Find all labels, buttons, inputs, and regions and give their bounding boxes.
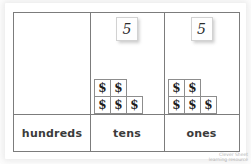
work-area-hundreds[interactable] (14, 13, 90, 114)
column-tens[interactable]: 5 $ $ $ (90, 13, 164, 151)
dollar-icon: $ (172, 82, 180, 94)
column-label-tens: tens (113, 127, 141, 140)
label-cell-hundreds: hundreds (14, 114, 90, 152)
column-divider-hundreds-tens (90, 13, 91, 151)
dollar-tile[interactable]: $ (94, 79, 111, 97)
label-cell-tens: tens (90, 114, 164, 152)
dollar-icon: $ (130, 99, 138, 111)
tile-row: $ $ (94, 79, 126, 97)
dollar-tile[interactable]: $ (168, 96, 185, 114)
dollar-tile[interactable]: $ (110, 79, 127, 97)
dollar-tile[interactable]: $ (168, 79, 185, 97)
column-divider-tens-ones (164, 13, 165, 151)
dollar-icon: $ (188, 99, 196, 111)
watermark-logo: Clever Sheet learning resource (209, 152, 248, 162)
chart-columns: hundreds 5 $ $ (14, 13, 239, 151)
digit-card-tens[interactable]: 5 (116, 17, 138, 41)
label-cell-ones: ones (164, 114, 239, 152)
dollar-icon: $ (114, 99, 122, 111)
place-value-chart-worksheet: hundreds 5 $ $ (0, 0, 251, 164)
dollar-icon: $ (204, 99, 212, 111)
tile-row: $ $ (168, 79, 200, 97)
column-label-hundreds: hundreds (22, 127, 82, 140)
dollar-tile[interactable]: $ (184, 96, 201, 114)
dollar-icon: $ (172, 99, 180, 111)
digit-card-ones[interactable]: 5 (191, 17, 213, 41)
dollar-icon: $ (98, 99, 106, 111)
column-hundreds[interactable]: hundreds (14, 13, 90, 151)
dollar-icon: $ (188, 82, 196, 94)
tile-row: $ $ $ (168, 96, 216, 114)
dollar-icon: $ (114, 82, 122, 94)
tile-row: $ $ $ (94, 96, 142, 114)
dollar-tile[interactable]: $ (94, 96, 111, 114)
tile-stack-ones: $ $ $ $ (168, 80, 216, 114)
tile-stack-tens: $ $ $ $ (94, 80, 142, 114)
column-label-ones: ones (186, 127, 216, 140)
label-row-divider (14, 114, 239, 115)
dollar-tile[interactable]: $ (110, 96, 127, 114)
digit-value-ones: 5 (197, 22, 206, 36)
dollar-tile[interactable]: $ (126, 96, 143, 114)
chart-frame: hundreds 5 $ $ (13, 12, 240, 152)
dollar-tile[interactable]: $ (200, 96, 217, 114)
work-area-ones[interactable]: 5 $ $ $ (164, 13, 239, 114)
dollar-icon: $ (98, 82, 106, 94)
dollar-tile[interactable]: $ (184, 79, 201, 97)
work-area-tens[interactable]: 5 $ $ $ (90, 13, 164, 114)
column-ones[interactable]: 5 $ $ $ (164, 13, 239, 151)
digit-value-tens: 5 (123, 22, 132, 36)
